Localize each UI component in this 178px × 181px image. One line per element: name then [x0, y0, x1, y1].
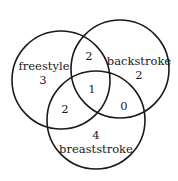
- backstroke-label: backstroke: [107, 54, 172, 68]
- breaststroke-only-count: 4: [92, 128, 99, 142]
- venn-diagram: freestyle 3 backstroke 2 2 1 2 0 4 breas…: [0, 0, 178, 181]
- backstroke-breaststroke-count: 0: [120, 99, 127, 113]
- breaststroke-label: breaststroke: [59, 142, 133, 156]
- backstroke-only-count: 2: [135, 68, 142, 82]
- freestyle-label: freestyle: [19, 59, 70, 73]
- all-three-count: 1: [88, 82, 95, 96]
- freestyle-only-count: 3: [39, 73, 46, 87]
- freestyle-breaststroke-count: 2: [61, 102, 68, 116]
- freestyle-backstroke-count: 2: [85, 49, 92, 63]
